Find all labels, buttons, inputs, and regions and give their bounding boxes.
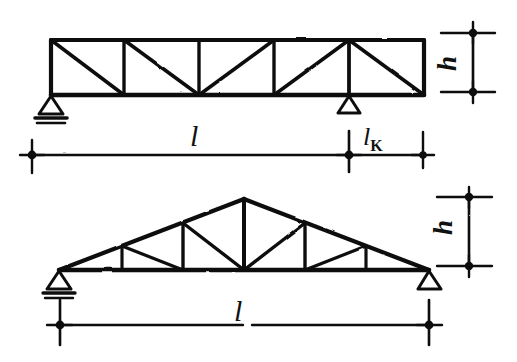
upper-diagonal-2 (124, 40, 199, 95)
roller-support-triangle (338, 96, 360, 113)
upper-support-right (338, 96, 360, 113)
upper-span-node-mid (345, 151, 354, 160)
upper-height-node-bottom (469, 88, 477, 96)
lower-span-label: l (234, 296, 242, 326)
upper-diagonal-3 (199, 40, 274, 95)
lower-height-label: h (430, 220, 457, 235)
cantilever-label-subscript: K (370, 137, 382, 154)
lower-height-node-top (465, 193, 473, 201)
lower-support-right (418, 271, 441, 289)
upper-height-node-top (469, 29, 477, 37)
upper-truss-group (51, 40, 424, 95)
lower-diagonal-right-2 (305, 246, 366, 270)
upper-span-label: l (190, 121, 198, 151)
upper-cantilever-node-right (419, 151, 427, 159)
truss-drawing (0, 0, 517, 362)
figure-canvas: h l lK h l (0, 0, 517, 362)
lower-support-left (43, 271, 75, 298)
lower-pinned-support-triangle (47, 271, 71, 289)
upper-diagonal-4 (274, 40, 349, 95)
lower-span-node-right (425, 321, 434, 330)
lower-diagonal-left-2 (183, 223, 244, 270)
lower-truss-group (59, 199, 429, 270)
lower-top-chord-left (59, 199, 244, 270)
lower-span-node-left (56, 321, 65, 330)
lower-diagonal-right-1 (244, 223, 305, 270)
upper-diagonal-1 (51, 40, 124, 95)
upper-cantilever-label: lK (363, 124, 383, 154)
lower-span-dimension (47, 300, 442, 345)
lower-height-node-bottom (465, 262, 473, 270)
lower-roller-support-triangle (418, 271, 441, 289)
pinned-support-triangle (39, 96, 63, 114)
upper-diagonal-5 (349, 40, 424, 95)
lower-diagonal-left-1 (122, 246, 183, 270)
upper-height-label: h (434, 56, 461, 71)
lower-top-chord-right (244, 199, 429, 270)
upper-span-node-left (28, 151, 37, 160)
upper-support-left (35, 96, 67, 123)
